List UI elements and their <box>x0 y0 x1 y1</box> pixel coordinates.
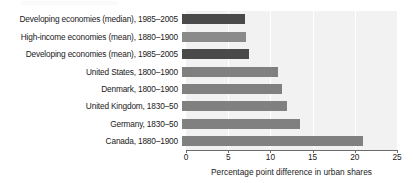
chart-rows: Developing economies (median), 1985–2005… <box>0 11 413 150</box>
bar <box>182 136 363 146</box>
bar-track <box>182 115 413 132</box>
category-label: United Kingdom, 1830–50 <box>0 101 182 111</box>
bar-track <box>182 46 413 63</box>
category-label: Canada, 1880–1900 <box>0 136 182 146</box>
bar <box>182 84 282 94</box>
top-edge-artifact <box>22 1 118 5</box>
chart-row: Denmark, 1800–1900 <box>0 81 413 98</box>
bar <box>182 49 249 59</box>
bar <box>182 14 245 24</box>
chart-row: High-income economies (mean), 1880–1900 <box>0 28 413 45</box>
chart-row: Germany, 1830–50 <box>0 115 413 132</box>
chart-row: Canada, 1880–1900 <box>0 133 413 150</box>
bar-track <box>182 11 413 28</box>
category-label: Developing economies (median), 1985–2005 <box>0 14 182 24</box>
x-tick-label: 25 <box>392 152 401 163</box>
x-tick-label: 0 <box>184 152 189 163</box>
bar <box>182 101 287 111</box>
x-axis-title: Percentage point difference in urban sha… <box>186 167 397 178</box>
chart-row: United Kingdom, 1830–50 <box>0 98 413 115</box>
x-axis-line <box>186 150 397 151</box>
bar-track <box>182 28 413 45</box>
category-label: Germany, 1830–50 <box>0 119 182 129</box>
chart-row: United States, 1800–1900 <box>0 63 413 80</box>
chart-row: Developing economies (median), 1985–2005 <box>0 11 413 28</box>
bar-track <box>182 133 413 150</box>
category-label: High-income economies (mean), 1880–1900 <box>0 32 182 42</box>
bar <box>182 32 246 42</box>
category-label: United States, 1800–1900 <box>0 67 182 77</box>
x-tick-label: 20 <box>350 152 359 163</box>
x-tick-label: 10 <box>266 152 275 163</box>
category-label: Developing economies (mean), 1985–2005 <box>0 49 182 59</box>
bar-track <box>182 63 413 80</box>
chart-row: Developing economies (mean), 1985–2005 <box>0 46 413 63</box>
category-label: Denmark, 1800–1900 <box>0 84 182 94</box>
x-tick-label: 5 <box>226 152 231 163</box>
bar-track <box>182 98 413 115</box>
bar-track <box>182 81 413 98</box>
bar <box>182 67 278 77</box>
bar-chart-figure: Developing economies (median), 1985–2005… <box>0 0 413 183</box>
x-tick-label: 15 <box>308 152 317 163</box>
bar <box>182 119 300 129</box>
